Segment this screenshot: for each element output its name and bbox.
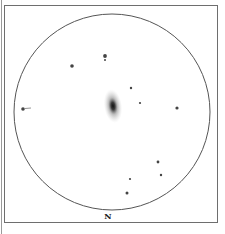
star — [157, 161, 160, 164]
stars-group — [21, 54, 178, 194]
star-field — [0, 0, 225, 234]
star — [70, 64, 74, 68]
star — [160, 174, 162, 176]
star — [103, 54, 107, 58]
galaxy — [102, 88, 125, 124]
star-trail-line — [25, 108, 31, 109]
star — [130, 87, 132, 89]
star — [139, 102, 141, 104]
star — [21, 107, 25, 111]
star — [104, 59, 106, 61]
star — [175, 106, 178, 109]
star — [129, 178, 131, 180]
star — [126, 192, 129, 195]
north-label: N — [102, 212, 114, 221]
